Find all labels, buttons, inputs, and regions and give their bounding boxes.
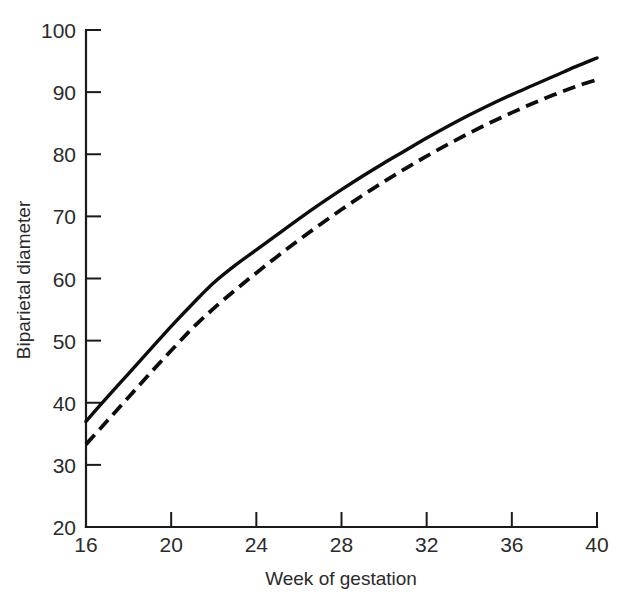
y-tick-label: 30 (53, 454, 76, 477)
dashed-curve-line (86, 80, 597, 445)
y-tick-label: 50 (53, 330, 76, 353)
biparietal-diameter-line-chart: 2030405060708090100 16202428323640 Week … (0, 0, 627, 601)
x-tick-label: 24 (245, 533, 269, 556)
x-axis-title: Week of gestation (265, 568, 417, 589)
y-tick-label: 20 (53, 516, 76, 539)
x-tick-label: 16 (74, 533, 97, 556)
chart-container: 2030405060708090100 16202428323640 Week … (0, 0, 627, 601)
y-axis-tick-marks (86, 30, 101, 465)
y-tick-label: 80 (53, 143, 76, 166)
x-axis-tick-marks (171, 512, 597, 527)
y-tick-label: 100 (41, 19, 76, 42)
y-axis-title: Biparietal diameter (13, 200, 34, 359)
x-axis-tick-labels: 16202428323640 (74, 533, 608, 556)
x-tick-label: 20 (159, 533, 182, 556)
y-tick-label: 40 (53, 392, 76, 415)
x-tick-label: 40 (585, 533, 608, 556)
y-tick-label: 70 (53, 205, 76, 228)
solid-curve-line (86, 58, 597, 421)
y-tick-label: 60 (53, 268, 76, 291)
y-axis-tick-labels: 2030405060708090100 (41, 19, 76, 539)
y-tick-label: 90 (53, 81, 76, 104)
x-tick-label: 28 (330, 533, 353, 556)
x-tick-label: 36 (500, 533, 523, 556)
x-tick-label: 32 (415, 533, 438, 556)
